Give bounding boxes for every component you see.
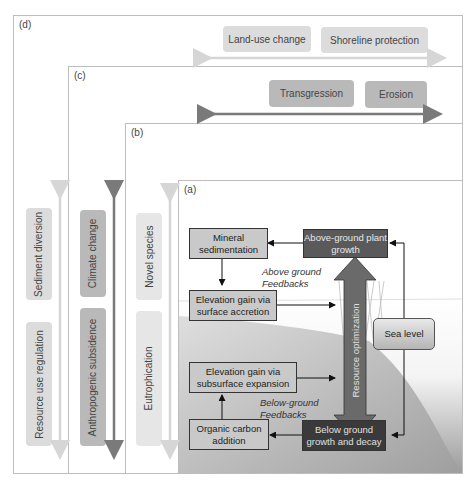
elevation-surface-accretion-box: Elevation gain via surface accretion <box>189 290 277 321</box>
organic-carbon-addition-box: Organic carbon addition <box>189 419 269 450</box>
resource-optimization-label: Resource optimization <box>348 290 362 410</box>
sea-level-to-below-arrow <box>392 350 404 435</box>
sea-level-box: Sea level <box>373 318 435 350</box>
above-ground-plant-growth-box: Above-ground plant growth <box>303 229 388 258</box>
above-ground-feedbacks-label: Above ground Feedbacks <box>262 266 342 290</box>
below-ground-growth-box: Below ground growth and decay <box>302 420 386 451</box>
mineral-sedimentation-box: Mineral sedimentation <box>189 228 268 259</box>
sea-level-to-above-arrow <box>390 243 404 318</box>
below-ground-feedbacks-label: Below-ground Feedbacks <box>260 397 330 421</box>
elevation-subsurface-expansion-box: Elevation gain via subsurface expansion <box>189 362 297 393</box>
